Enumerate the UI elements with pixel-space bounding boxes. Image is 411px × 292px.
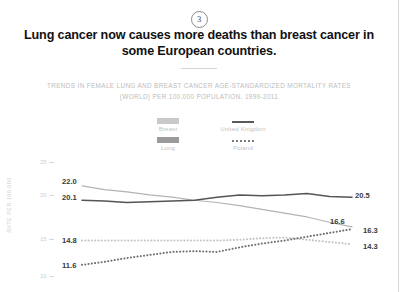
- y-tick-15: 15: [40, 236, 54, 242]
- series-line-united-kingdom-breast: [82, 186, 352, 227]
- subtitle-line-2: (WORLD) PER 100,000 POPULATION, 1999-201…: [40, 91, 358, 102]
- lung-swatch-icon: [157, 137, 179, 143]
- figure-number-badge: 3: [0, 8, 398, 28]
- start-label-poland-lung: 11.6: [62, 261, 76, 270]
- legend-label-breast: Breast: [140, 126, 196, 132]
- start-label-poland-breast: 14.8: [62, 236, 77, 245]
- figure-number: 3: [191, 11, 208, 28]
- solid-line-icon: [232, 121, 254, 123]
- legend-item-united-kingdom[interactable]: United Kingdom: [196, 118, 290, 132]
- page-title: Lung cancer now causes more deaths than …: [22, 27, 376, 59]
- title-line-1: Lung cancer now causes more deaths than …: [24, 28, 360, 42]
- chart-page: 3 Lung cancer now causes more deaths tha…: [0, 0, 411, 292]
- legend-item-breast[interactable]: Breast: [140, 118, 196, 132]
- series-line-poland-breast: [82, 237, 352, 244]
- y-tick-25: 25: [40, 159, 54, 165]
- line-chart: RATE PER 100,000 25 20 15 10 22.0 20.1 1…: [0, 150, 398, 292]
- title-divider: [181, 68, 217, 69]
- start-label-uk-lung: 20.1: [62, 193, 77, 202]
- start-label-uk-breast: 22.0: [62, 177, 77, 186]
- legend-label-united-kingdom: United Kingdom: [196, 126, 290, 132]
- series-line-poland-lung: [82, 229, 352, 265]
- series-line-united-kingdom-lung: [82, 193, 352, 202]
- legend-item-poland[interactable]: Poland: [196, 137, 290, 151]
- y-axis-title: RATE PER 100,000: [6, 174, 12, 236]
- end-label-poland-lung: 16.3: [363, 226, 378, 235]
- legend-item-lung[interactable]: Lung: [140, 137, 196, 151]
- end-label-uk-lung: 20.5: [355, 191, 370, 200]
- y-tick-20: 20: [40, 192, 54, 198]
- y-tick-10: 10: [40, 273, 54, 279]
- chart-subtitle: TRENDS IN FEMALE LUNG AND BREAST CANCER …: [40, 80, 358, 102]
- dotted-line-icon: [232, 140, 254, 142]
- subtitle-line-1: TRENDS IN FEMALE LUNG AND BREAST CANCER …: [40, 80, 358, 91]
- breast-swatch-icon: [157, 118, 179, 124]
- end-label-poland-breast: 14.3: [363, 242, 378, 251]
- page-border: [398, 0, 399, 292]
- end-label-uk-breast: 16.6: [330, 217, 345, 226]
